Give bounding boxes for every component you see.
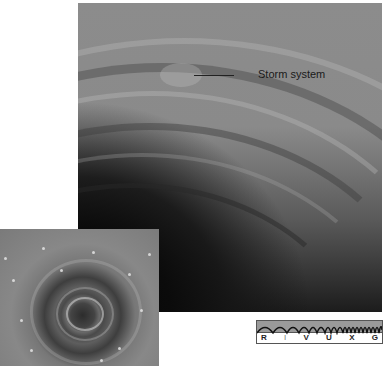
cloud-spot — [148, 253, 151, 256]
cloud-spot — [100, 359, 103, 362]
spectrum-band-labels: R I V U X G — [257, 332, 382, 343]
cloud-spot — [128, 273, 131, 276]
band-r: R — [261, 332, 267, 343]
cloud-spot — [20, 319, 23, 322]
cloud-spot — [118, 347, 121, 350]
band-i: I — [284, 332, 286, 343]
vortex-ring — [30, 259, 142, 365]
cloud-spot — [140, 309, 143, 312]
cloud-spot — [12, 279, 15, 282]
inset-vortex-image — [0, 229, 159, 366]
annotation-leader-line — [194, 75, 234, 76]
band-v: V — [304, 332, 309, 343]
spectrum-indicator: R I V U X G — [256, 320, 383, 344]
cloud-spot — [4, 257, 7, 260]
cloud-spot — [30, 349, 33, 352]
band-x: X — [349, 332, 354, 343]
cloud-spot — [42, 247, 45, 250]
storm-system-label: Storm system — [258, 68, 325, 80]
cloud-spot — [60, 269, 63, 272]
band-g: G — [372, 332, 378, 343]
cloud-spot — [92, 251, 95, 254]
band-u: U — [326, 332, 332, 343]
